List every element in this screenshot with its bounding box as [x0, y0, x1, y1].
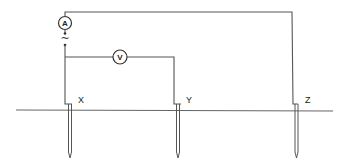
ammeter-icon: A: [59, 17, 72, 30]
voltmeter-label: V: [117, 53, 123, 62]
ground-surface: [16, 110, 333, 111]
electrode-y-label: Y: [186, 95, 192, 105]
voltmeter-icon: V: [113, 50, 127, 64]
voltmeter-lead-right: [127, 57, 181, 104]
x-wire: [65, 45, 72, 104]
circuit-diagram: A ~ V X Y Z: [0, 0, 347, 165]
ac-source-icon: ~: [60, 32, 69, 45]
electrode-z-label: Z: [305, 95, 311, 105]
electrode-y: [177, 104, 180, 158]
electrode-x-label: X: [78, 95, 84, 105]
electrode-z: [295, 104, 298, 158]
electrode-x: [69, 104, 72, 158]
ammeter-label: A: [62, 19, 68, 28]
top-wire: [65, 12, 298, 104]
